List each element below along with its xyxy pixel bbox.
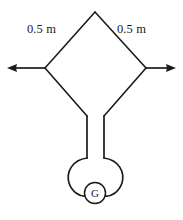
dimension-label-right: 0.5 m — [117, 22, 146, 37]
upper-left-member — [45, 12, 95, 68]
figure-container: G 0.5 m 0.5 m — [0, 0, 183, 220]
dimension-label-left: 0.5 m — [27, 22, 56, 37]
lower-left-member — [45, 68, 87, 116]
lower-right-member — [104, 68, 146, 116]
left-force-arrowhead-icon — [7, 64, 17, 72]
right-force-arrowhead-icon — [166, 64, 176, 72]
upper-right-member — [95, 12, 146, 68]
gravity-label: G — [91, 187, 99, 199]
loop-right-arc — [104, 158, 123, 196]
